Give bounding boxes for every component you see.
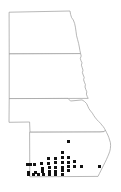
occurrence-dot[interactable] bbox=[61, 166, 64, 169]
state-south-dakota[interactable] bbox=[10, 54, 89, 99]
occurrence-dot[interactable] bbox=[67, 156, 70, 159]
state-nebraska[interactable] bbox=[9, 98, 105, 132]
occurrence-dot[interactable] bbox=[61, 169, 64, 172]
occurrence-dot[interactable] bbox=[41, 170, 44, 173]
occurrence-dot[interactable] bbox=[54, 161, 57, 164]
occurrence-dot[interactable] bbox=[98, 165, 101, 168]
occurrence-dot[interactable] bbox=[67, 169, 70, 172]
state-kansas[interactable] bbox=[30, 130, 111, 177]
map-canvas bbox=[0, 0, 121, 192]
occurrence-dot[interactable] bbox=[37, 173, 40, 176]
occurrence-dot[interactable] bbox=[61, 161, 64, 164]
distribution-map-figure bbox=[0, 0, 121, 192]
occurrence-dot[interactable] bbox=[73, 165, 76, 168]
occurrence-dot[interactable] bbox=[61, 151, 64, 154]
occurrence-dot[interactable] bbox=[67, 165, 70, 168]
occurrence-dot[interactable] bbox=[29, 163, 32, 166]
occurrence-dot[interactable] bbox=[33, 163, 36, 166]
occurrence-dot[interactable] bbox=[54, 166, 57, 169]
occurrence-dot[interactable] bbox=[47, 157, 50, 160]
occurrence-dot[interactable] bbox=[54, 157, 57, 160]
state-outlines-group bbox=[9, 11, 110, 177]
occurrence-dot[interactable] bbox=[42, 173, 45, 176]
occurrence-dot[interactable] bbox=[61, 173, 64, 176]
occurrence-dot[interactable] bbox=[54, 173, 57, 176]
occurrence-dot[interactable] bbox=[26, 163, 29, 166]
occurrence-dot[interactable] bbox=[47, 162, 50, 165]
occurrence-dot[interactable] bbox=[48, 166, 51, 169]
state-north-dakota[interactable] bbox=[10, 11, 81, 54]
occurrence-dot[interactable] bbox=[27, 173, 30, 176]
occurrence-dot[interactable] bbox=[73, 160, 76, 163]
occurrence-dot[interactable] bbox=[67, 161, 70, 164]
occurrence-dot[interactable] bbox=[54, 170, 57, 173]
occurrence-dot[interactable] bbox=[40, 162, 43, 165]
occurrence-dot[interactable] bbox=[80, 165, 83, 168]
occurrence-dot[interactable] bbox=[32, 173, 35, 176]
occurrence-dot[interactable] bbox=[48, 170, 51, 173]
occurrence-dot[interactable] bbox=[67, 140, 70, 143]
occurrence-dot[interactable] bbox=[41, 167, 44, 170]
occurrence-dot[interactable] bbox=[48, 173, 51, 176]
occurrence-dot[interactable] bbox=[61, 156, 64, 159]
